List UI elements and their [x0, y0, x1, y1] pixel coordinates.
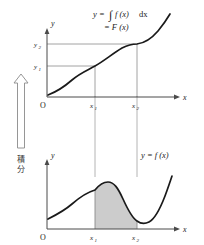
bottom-y-axis-label: y [50, 151, 55, 160]
bottom-origin-label: O [40, 233, 46, 242]
bottom-x-axis-arrow [174, 227, 180, 232]
top-xtick-x2: x 2 [131, 102, 140, 111]
bottom-xtick-x2-sub: 2 [137, 238, 140, 243]
top-xtick-x1: x 1 [89, 102, 97, 111]
top-ytick-y1-label: y [33, 63, 38, 71]
top-ytick-y2-sub: 2 [39, 45, 42, 50]
top-origin-label: O [40, 101, 46, 110]
top-ytick-y1: y 1 [33, 63, 41, 72]
bottom-xtick-x2: x 2 [131, 234, 140, 243]
integration-label-char2: 分 [17, 165, 25, 174]
equation-lhs: y = [92, 9, 105, 19]
bottom-x-axis-label: x [182, 225, 187, 234]
bottom-panel [45, 159, 180, 231]
top-equation-label: y = ∫ f (x) dx = F (x) [92, 8, 148, 33]
top-y-axis-arrow [45, 28, 50, 34]
definite-integral-area [95, 182, 137, 229]
top-xtick-x1-sub: 1 [95, 106, 98, 111]
panel-connectors [95, 96, 137, 177]
bottom-xtick-x1-label: x [89, 234, 94, 242]
equation-line2: = F (x) [104, 22, 129, 32]
integration-arrow [14, 74, 28, 148]
top-y-axis-label: y [50, 19, 55, 28]
integration-figure: y = ∫ f (x) dx = F (x) y x O y 2 y 1 x 1… [0, 0, 204, 245]
top-ytick-y1-sub: 1 [39, 67, 42, 72]
top-x-axis-arrow [174, 95, 180, 100]
top-ytick-y2: y 2 [33, 41, 42, 50]
integral-sign: ∫ [108, 8, 113, 22]
bottom-y-axis-arrow [45, 159, 50, 165]
equation-integrand: f (x) [115, 9, 129, 19]
top-ytick-y2-label: y [33, 41, 38, 49]
integration-label-char1: 積 [17, 154, 25, 164]
bottom-xtick-x2-label: x [131, 234, 136, 242]
top-x-axis-label: x [182, 93, 187, 102]
equation-dx: dx [139, 9, 148, 19]
bottom-xtick-x1-sub: 1 [95, 238, 98, 243]
top-xtick-x1-label: x [89, 102, 94, 110]
bottom-xtick-x1: x 1 [89, 234, 97, 243]
top-axes [45, 28, 180, 99]
integration-arrow-shape [14, 74, 28, 148]
bottom-equation-label: y = f (x) [140, 150, 169, 160]
top-xtick-x2-sub: 2 [137, 106, 140, 111]
figure-page: y = ∫ f (x) dx = F (x) y x O y 2 y 1 x 1… [0, 0, 204, 245]
top-xtick-x2-label: x [131, 102, 136, 110]
